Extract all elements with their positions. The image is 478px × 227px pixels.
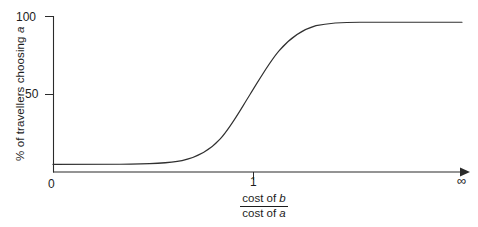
x-axis-label: cost of b cost of a <box>204 193 324 219</box>
x-axis-denominator-text: cost of <box>242 207 279 219</box>
sigmoid-curve <box>53 22 462 164</box>
x-tick-label-0: 0 <box>48 178 55 190</box>
x-axis-fraction-denominator: cost of a <box>240 207 287 220</box>
x-axis-fraction: cost of b cost of a <box>240 193 287 219</box>
x-tick-label-1: 1 <box>250 176 257 188</box>
y-tick-label-50: 50 <box>25 88 38 100</box>
chart-figure: % of travellers choosing a 100 50 0 1 ∞ … <box>0 0 478 227</box>
x-axis-numerator-text: cost of <box>242 192 279 204</box>
y-tick-label-100: 100 <box>16 11 36 23</box>
x-tick-label-infinity: ∞ <box>457 174 466 187</box>
y-axis-label-italic: a <box>14 27 26 34</box>
x-axis-fraction-numerator: cost of b <box>240 193 287 207</box>
x-axis-numerator-italic: b <box>279 192 285 204</box>
x-axis-denominator-italic: a <box>279 207 285 219</box>
